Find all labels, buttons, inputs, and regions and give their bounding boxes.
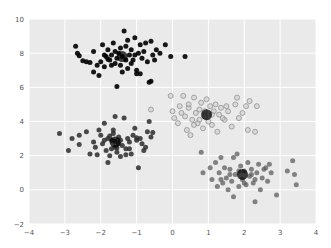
data-point	[236, 116, 241, 121]
data-point	[150, 52, 155, 57]
data-point	[215, 129, 220, 134]
data-point	[113, 114, 118, 119]
data-point	[181, 93, 186, 98]
data-point	[96, 73, 101, 78]
data-point	[102, 138, 107, 143]
data-point	[260, 175, 265, 180]
data-point	[222, 165, 227, 170]
data-point	[107, 134, 112, 139]
data-point	[114, 84, 119, 89]
data-point	[177, 104, 182, 109]
data-point	[170, 109, 175, 114]
data-point	[91, 140, 96, 145]
data-point	[227, 172, 232, 177]
data-point	[199, 100, 204, 105]
data-point	[73, 44, 78, 49]
data-point	[294, 182, 299, 187]
data-point	[190, 117, 195, 122]
data-point	[118, 63, 123, 68]
x-tick-label: 4	[314, 229, 319, 237]
data-point	[249, 172, 254, 177]
data-point	[102, 64, 107, 69]
data-point	[122, 116, 127, 121]
data-point	[98, 133, 103, 138]
data-point	[132, 52, 137, 57]
data-point	[123, 152, 128, 157]
x-tick-label: 2	[242, 229, 246, 237]
data-point	[231, 194, 236, 199]
data-point	[132, 35, 137, 40]
x-tick-label: −4	[24, 229, 35, 237]
data-point	[265, 179, 270, 184]
data-point	[125, 66, 130, 71]
data-point	[107, 153, 112, 158]
data-point	[227, 167, 232, 172]
data-point	[229, 179, 234, 184]
data-point	[95, 152, 100, 157]
data-point	[129, 47, 134, 52]
data-point	[125, 38, 130, 43]
data-point	[188, 133, 193, 138]
data-point	[213, 160, 218, 165]
data-point	[256, 162, 261, 167]
data-point	[77, 53, 82, 58]
data-point	[226, 187, 231, 192]
data-point	[267, 162, 272, 167]
data-point	[236, 184, 241, 189]
data-point	[100, 42, 105, 47]
x-tick-label: −3	[60, 229, 70, 237]
data-point	[224, 104, 229, 109]
data-point	[109, 63, 114, 68]
data-point	[129, 151, 134, 156]
data-point	[235, 151, 240, 156]
data-point	[127, 146, 132, 151]
data-point	[140, 56, 145, 61]
data-point	[258, 187, 263, 192]
data-point	[213, 102, 218, 107]
data-point	[105, 160, 110, 165]
data-point	[175, 121, 180, 126]
x-tick-label: 1	[206, 229, 210, 237]
data-point	[118, 154, 123, 159]
data-point	[226, 109, 231, 114]
data-point	[143, 145, 148, 150]
data-point	[233, 102, 238, 107]
data-point	[184, 128, 189, 133]
y-tick-label: 6	[20, 84, 25, 92]
data-point	[157, 51, 162, 56]
y-axis-ticks: −20246810	[14, 16, 25, 229]
data-point	[261, 167, 266, 172]
data-point	[192, 122, 197, 127]
data-point	[235, 95, 240, 100]
data-point	[238, 163, 243, 168]
data-point	[102, 52, 107, 57]
data-point	[136, 165, 141, 170]
data-point	[77, 133, 82, 138]
data-point	[245, 160, 250, 165]
cluster-center-marker	[110, 137, 121, 148]
data-point	[120, 69, 125, 74]
y-tick-label: −2	[14, 221, 24, 229]
data-point	[143, 40, 148, 45]
cluster-center-marker	[117, 51, 128, 62]
data-point	[147, 119, 152, 124]
data-point	[105, 57, 110, 62]
data-point	[152, 58, 157, 63]
data-point	[209, 177, 214, 182]
data-point	[104, 148, 109, 153]
data-point	[66, 148, 71, 153]
data-point	[192, 95, 197, 100]
data-point	[197, 107, 202, 112]
data-point	[91, 49, 96, 54]
data-point	[148, 134, 153, 139]
data-point	[148, 107, 153, 112]
data-point	[292, 172, 297, 177]
data-point	[285, 169, 290, 174]
data-point	[200, 126, 205, 131]
data-point	[220, 116, 225, 121]
data-point	[150, 130, 155, 135]
data-point	[134, 135, 139, 140]
data-point	[145, 129, 150, 134]
data-point	[168, 54, 173, 59]
data-point	[148, 79, 153, 84]
